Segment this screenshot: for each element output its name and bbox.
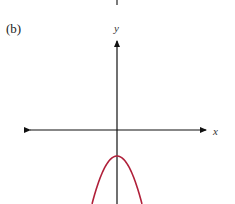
coordinate-plane: x y — [0, 0, 235, 204]
y-axis-label: y — [113, 22, 119, 34]
x-axis-label: x — [212, 125, 218, 137]
